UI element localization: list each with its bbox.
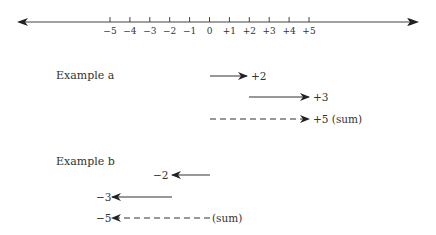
tick-label: −3 [143, 26, 157, 36]
number-line-diagram: −5−4−3−2−10+1+2+3+4+5 +2 +3 +5 (sum) −2 … [0, 0, 436, 235]
tick-label: +2 [243, 26, 256, 36]
example-b-arrows: −2 −3 −5 (sum) [96, 169, 242, 224]
example-b-title: Example b [56, 155, 115, 168]
tick-label: −5 [103, 26, 117, 36]
tick-label: +3 [263, 26, 277, 36]
label-plus-3: +3 [313, 91, 328, 103]
tick-label: +1 [223, 26, 236, 36]
label-minus-2: −2 [153, 169, 168, 181]
tick-marks: −5−4−3−2−10+1+2+3+4+5 [103, 17, 316, 36]
tick-label: −1 [183, 26, 196, 36]
label-sum: (sum) [212, 212, 242, 224]
tick-label: +4 [282, 26, 296, 36]
label-minus-5: −5 [96, 212, 111, 224]
number-line: −5−4−3−2−10+1+2+3+4+5 [17, 17, 419, 36]
tick-label: −2 [163, 26, 176, 36]
tick-label: +5 [302, 26, 316, 36]
example-a-arrows: +2 +3 +5 (sum) [210, 70, 362, 125]
label-plus-2: +2 [251, 70, 266, 82]
example-a-title: Example a [56, 69, 114, 82]
label-minus-3: −3 [96, 191, 111, 203]
label-sum-plus-5: +5 (sum) [313, 113, 362, 125]
tick-label: 0 [207, 26, 213, 36]
tick-label: −4 [123, 26, 137, 36]
